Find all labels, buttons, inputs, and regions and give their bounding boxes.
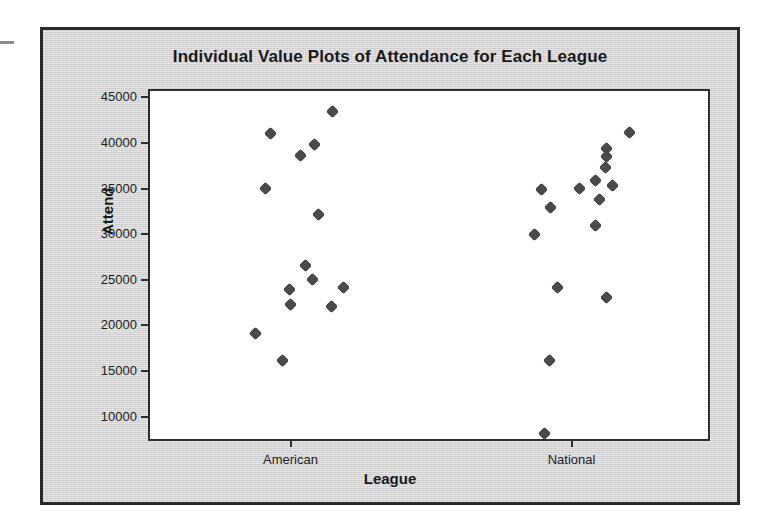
data-point [308,138,321,151]
data-point [338,282,351,295]
data-point [538,428,551,439]
data-point [325,300,338,313]
y-axis-tick-label: 25000 [101,271,137,286]
data-point [276,355,289,368]
y-axis-tick-label: 45000 [101,89,137,104]
data-point [294,149,307,162]
chart-title: Individual Value Plots of Attendance for… [43,47,737,67]
data-point [264,127,277,140]
data-point [623,127,636,140]
y-axis-tick [141,142,149,144]
data-point [593,193,606,206]
data-point [312,208,325,221]
y-axis-tick-label: 40000 [101,135,137,150]
x-axis-tick-label: National [548,452,596,467]
data-point [543,355,556,368]
x-axis-tick [290,439,292,447]
data-point [259,182,272,195]
data-points-layer [150,91,708,439]
data-point [599,161,612,174]
data-point [307,273,320,286]
x-axis-tick-label: American [263,452,318,467]
data-point [300,259,313,272]
chart-figure-frame: Individual Value Plots of Attendance for… [40,27,740,505]
y-axis-tick [141,96,149,98]
y-axis-tick-label: 30000 [101,226,137,241]
data-point [536,183,549,196]
y-axis-tick-label: 20000 [101,317,137,332]
y-axis-tick-label: 15000 [101,363,137,378]
x-axis-title: League [43,470,737,487]
data-point [589,174,602,187]
scan-artifact-mark [0,41,14,44]
data-point [284,298,297,311]
data-point [600,291,613,304]
y-axis-tick [141,416,149,418]
data-point [249,327,262,340]
y-axis-tick-label: 35000 [101,180,137,195]
plot-area: 1000015000200002500030000350004000045000… [148,89,710,441]
data-point [544,201,557,214]
data-point [326,106,339,119]
y-axis-tick [141,279,149,281]
data-point [606,179,619,192]
data-point [574,182,587,195]
y-axis-tick [141,324,149,326]
figure-page: Individual Value Plots of Attendance for… [0,0,779,531]
data-point [551,282,564,295]
data-point [600,150,613,163]
y-axis-tick [141,188,149,190]
data-point [283,283,296,296]
data-point [529,228,542,241]
x-axis-tick [571,439,573,447]
data-point [589,219,602,232]
y-axis-tick [141,233,149,235]
y-axis-tick-label: 10000 [101,408,137,423]
y-axis-tick [141,370,149,372]
